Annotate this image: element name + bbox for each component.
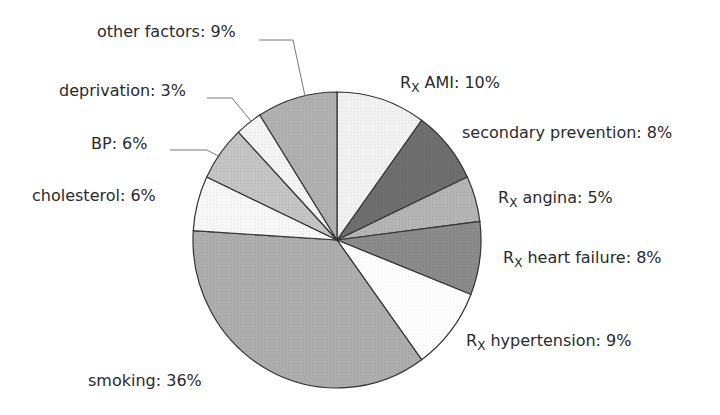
label-smoking: smoking: 36% <box>88 372 202 390</box>
label-rx-heart-failure: RX heart failure: 8% <box>503 249 662 272</box>
label-cholesterol: cholesterol: 6% <box>32 187 156 205</box>
label-rx-hypertension: RX hypertension: 9% <box>466 332 631 355</box>
rx-symbol: RX <box>466 332 485 355</box>
leader-line-other-factors <box>259 40 305 96</box>
label-rx-angina: RX angina: 5% <box>498 189 613 212</box>
label-rx-ami: RX AMI: 10% <box>400 74 500 97</box>
rx-symbol: RX <box>400 74 419 97</box>
pie-chart: other factors: 9% deprivation: 3% BP: 6%… <box>0 0 720 415</box>
label-deprivation: deprivation: 3% <box>59 82 186 100</box>
rx-symbol: RX <box>503 249 522 272</box>
label-other-factors: other factors: 9% <box>97 23 236 41</box>
leader-line-deprivation <box>207 98 251 121</box>
pie-slices <box>193 92 481 388</box>
label-secondary-prevention: secondary prevention: 8% <box>462 124 672 142</box>
label-bp: BP: 6% <box>91 135 147 153</box>
rx-symbol: RX <box>498 189 517 212</box>
leader-line-bp <box>170 150 220 157</box>
